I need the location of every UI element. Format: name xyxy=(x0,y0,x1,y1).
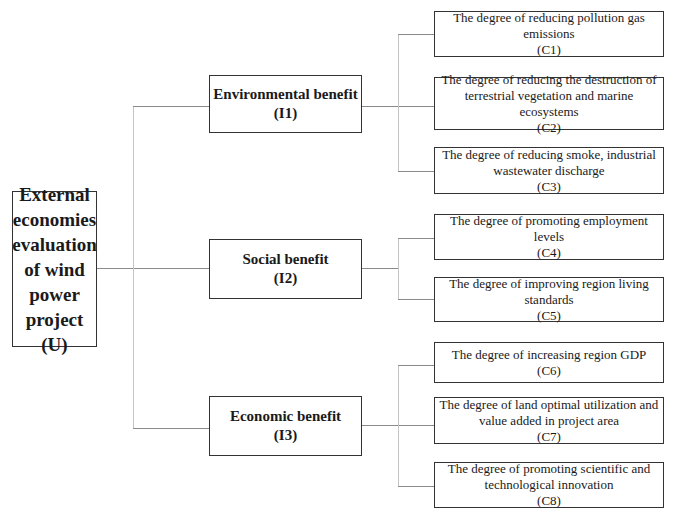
root-line: project xyxy=(26,307,84,332)
indicator-code: (C7) xyxy=(537,429,561,445)
connector-to-c3 xyxy=(398,171,434,172)
criterion-node-i2: Social benefit (I2) xyxy=(209,239,362,299)
criterion-node-i3: Economic benefit (I3) xyxy=(209,396,362,456)
indicator-code: (C8) xyxy=(537,493,561,509)
indicator-node-c7: The degree of land optimal utilization a… xyxy=(434,397,664,444)
root-line: power xyxy=(29,282,80,307)
criterion-code: (I1) xyxy=(274,104,297,123)
connector-to-i1 xyxy=(133,106,209,107)
connector-trunk-i3 xyxy=(398,365,399,487)
indicator-code: (C1) xyxy=(537,42,561,58)
criterion-code: (I3) xyxy=(274,426,297,445)
criterion-title: Economic benefit xyxy=(230,407,341,426)
root-line: of wind xyxy=(24,257,85,282)
connector-to-c6 xyxy=(398,365,434,366)
indicator-node-c1: The degree of reducing pollution gas emi… xyxy=(434,11,664,57)
root-line: (U) xyxy=(41,332,67,357)
indicator-line: The degree of land optimal utilization a… xyxy=(440,397,659,413)
criterion-title: Social benefit xyxy=(242,250,328,269)
connector-to-c4 xyxy=(398,238,434,239)
criterion-title: Environmental benefit xyxy=(213,85,357,104)
indicator-node-c8: The degree of promoting scientific and t… xyxy=(434,462,664,508)
connector-i2-out xyxy=(361,268,398,269)
criterion-node-i1: Environmental benefit (I1) xyxy=(209,75,362,133)
connector-to-c5 xyxy=(398,299,434,300)
connector-trunk-left xyxy=(133,106,134,429)
indicator-line: The degree of reducing the destruction o… xyxy=(441,72,656,88)
indicator-line: The degree of promoting employment level… xyxy=(438,213,660,245)
connector-to-c1 xyxy=(398,34,434,35)
indicator-code: (C2) xyxy=(537,120,561,136)
indicator-line: value added in project area xyxy=(479,413,619,429)
indicator-line: terrestrial vegetation and marine ecosys… xyxy=(438,88,660,120)
indicator-code: (C6) xyxy=(537,363,561,379)
root-line: economies xyxy=(13,207,96,232)
indicator-code: (C5) xyxy=(537,308,561,324)
indicator-line: The degree of increasing region GDP xyxy=(452,347,647,363)
connector-to-i3 xyxy=(133,428,209,429)
root-node-u: External economies evaluation of wind po… xyxy=(12,191,97,347)
indicator-line: emissions xyxy=(523,26,574,42)
indicator-code: (C3) xyxy=(537,179,561,195)
indicator-line: standards xyxy=(524,292,573,308)
root-line: evaluation xyxy=(12,232,96,257)
indicator-node-c2: The degree of reducing the destruction o… xyxy=(434,77,664,130)
indicator-code: (C4) xyxy=(537,245,561,261)
connector-to-c8 xyxy=(398,486,434,487)
indicator-node-c6: The degree of increasing region GDP (C6) xyxy=(434,342,664,383)
indicator-node-c3: The degree of reducing smoke, industrial… xyxy=(434,147,664,194)
indicator-node-c5: The degree of improving region living st… xyxy=(434,277,664,322)
connector-trunk-i2 xyxy=(398,238,399,300)
connector-trunk-i1 xyxy=(398,34,399,172)
indicator-node-c4: The degree of promoting employment level… xyxy=(434,214,664,260)
indicator-line: technological innovation xyxy=(485,477,614,493)
indicator-line: The degree of promoting scientific and xyxy=(448,461,651,477)
indicator-line: The degree of reducing pollution gas xyxy=(453,10,645,26)
root-line: External xyxy=(19,182,90,207)
indicator-line: wastewater discharge xyxy=(493,163,604,179)
indicator-line: The degree of improving region living xyxy=(449,276,649,292)
connector-root xyxy=(96,268,209,269)
indicator-line: The degree of reducing smoke, industrial xyxy=(442,147,656,163)
criterion-code: (I2) xyxy=(274,269,297,288)
